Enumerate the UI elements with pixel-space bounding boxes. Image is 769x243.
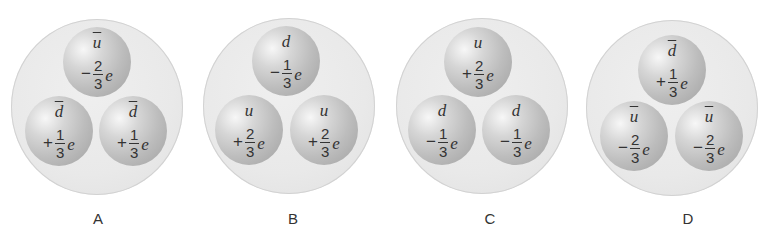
option-c-panel: u + 23 e d − 13 e d − 13 e C [385,0,577,243]
option-label-a: A [83,210,113,227]
option-label-b: B [278,210,308,227]
quark-sphere-top: u + 23 e [444,27,512,97]
quark-sphere-bottom-right: d + 13 e [99,96,167,166]
quark-sphere-bottom-right: d − 13 e [482,95,550,165]
quark-sphere-top: d − 13 e [252,26,320,96]
quark-symbol: d [252,32,320,52]
quark-charge: + 23 e [215,125,283,159]
quark-charge: + 13 e [25,126,93,160]
quark-charge: − 23 e [675,131,743,165]
quark-sphere-bottom-left: u + 23 e [215,95,283,165]
quark-symbol: d [99,102,167,122]
quark-sphere-bottom-left: u − 23 e [600,101,668,171]
quark-sphere-bottom-left: d + 13 e [25,96,93,166]
option-label-d: D [673,210,703,227]
quark-charge: + 13 e [99,126,167,160]
quark-charge: + 23 e [290,125,358,159]
quark-symbol: u [215,101,283,121]
quark-sphere-bottom-right: u + 23 e [290,95,358,165]
quark-charge: + 13 e [638,65,706,99]
quark-symbol: u [675,107,743,127]
quark-charge: − 23 e [600,131,668,165]
quark-symbol: u [290,101,358,121]
quark-symbol: d [482,101,550,121]
quark-charge: − 23 e [63,57,131,91]
option-a-panel: u − 23 e d + 13 e d + 13 e A [0,0,192,243]
quark-sphere-top: d + 13 e [638,35,706,105]
quark-symbol: u [63,33,131,53]
quark-symbol: d [408,101,476,121]
option-d-panel: d + 13 e u − 23 e u − 23 e D [577,0,769,243]
quark-symbol: u [444,33,512,53]
option-label-c: C [475,210,505,227]
quark-symbol: d [25,102,93,122]
quark-charge: − 13 e [408,125,476,159]
quark-sphere-bottom-right: u − 23 e [675,101,743,171]
option-b-panel: d − 13 e u + 23 e u + 23 e B [192,0,384,243]
quark-charge: − 13 e [252,56,320,90]
quark-symbol: u [600,107,668,127]
quark-charge: + 23 e [444,57,512,91]
quark-sphere-bottom-left: d − 13 e [408,95,476,165]
quark-charge: − 13 e [482,125,550,159]
quark-sphere-top: u − 23 e [63,27,131,97]
quark-symbol: d [638,41,706,61]
